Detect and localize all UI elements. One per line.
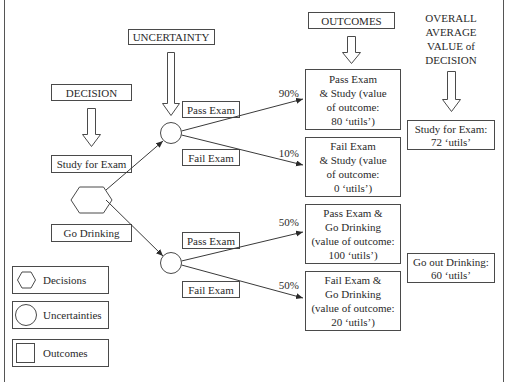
legend-decisions-label: Decisions [43,274,86,286]
outcome-line: 80 ‘utils’) [331,115,375,128]
branch-label-upper-pass: Pass Exam [183,102,240,118]
decision-option-study: Study for Exam [52,156,132,173]
overall-value-line: 60 ‘utils’ [431,269,471,281]
outcome-line: Pass Exam & [323,207,383,219]
branch-label-upper-pass-text: Pass Exam [187,104,235,116]
outcome-line: Go Drinking [325,221,381,233]
overall-value-line: Study for Exam: [415,123,488,135]
outcome-box-fail-drinking: Fail Exam & Go Drinking (value of outcom… [306,272,401,331]
outcome-line: (value of outcome: [311,302,394,315]
overall-header-line: AVERAGE [425,26,476,38]
outcome-line: Go Drinking [325,288,381,300]
outcome-line: 100 ‘utils’) [328,249,378,262]
branch-label-lower-pass: Pass Exam [183,233,240,249]
probability-upper-pass: 90% [279,87,299,99]
outcome-box-pass-study: Pass Exam & Study (value of outcome: 80 … [306,70,401,130]
outcome-line: Fail Exam & [325,274,382,286]
decision-tree-diagram: UNCERTAINTY DECISION Study for Exam Go D… [0,0,507,382]
legend-item-decisions: Decisions [13,267,109,294]
decision-option-drinking-label: Go Drinking [64,227,120,239]
legend-item-outcomes: Outcomes [13,340,109,367]
legend-hexagon-icon [18,272,36,288]
outcomes-header: OUTCOMES [309,13,395,29]
legend-square-icon [17,344,35,363]
outcomes-header-label: OUTCOMES [321,15,382,27]
outcome-line: of outcome: [327,168,380,180]
outcome-box-fail-study: Fail Exam & Study (value of outcome: 0 ‘… [306,138,401,197]
overall-header-line: VALUE of [427,40,475,52]
legend: Decisions Uncertainties Outcomes [13,267,109,367]
legend-outcomes-label: Outcomes [43,347,88,359]
uncertainty-header-label: UNCERTAINTY [133,31,210,43]
outcome-line: (value of outcome: [311,235,394,248]
outcome-line: 20 ‘utils’) [331,316,375,329]
decision-down-arrow-icon [83,109,101,147]
outcome-line: Pass Exam [329,73,377,85]
outcome-line: Fail Exam [330,140,376,152]
uncertainty-header: UNCERTAINTY [129,30,215,45]
overall-header-line: OVERALL [425,12,477,24]
decision-header: DECISION [52,85,132,101]
overall-value-study: Study for Exam: 72 ‘utils’ [408,121,495,150]
outcome-box-pass-drinking: Pass Exam & Go Drinking (value of outcom… [306,205,401,264]
overall-down-arrow-icon [443,72,461,112]
branch-label-lower-fail: Fail Exam [183,282,240,298]
outcome-line: & Study (value [319,87,386,100]
outcome-line: & Study (value [319,154,386,167]
branch-label-lower-fail-text: Fail Exam [188,284,234,296]
uncertainty-down-arrow-icon [163,53,180,116]
probability-upper-fail: 10% [279,147,299,159]
decision-option-study-label: Study for Exam [57,158,127,170]
decision-option-drinking: Go Drinking [52,225,132,242]
legend-item-uncertainties: Uncertainties [13,302,109,329]
uncertainty-node-study-icon [161,123,182,144]
overall-average-value-header: OVERALL AVERAGE VALUE of DECISION [425,12,477,66]
outcome-line: of outcome: [327,101,380,113]
overall-header-line: DECISION [425,54,476,66]
decision-node-hexagon-icon [71,187,112,213]
uncertainty-node-drinking-icon [161,253,182,274]
branch-label-upper-fail: Fail Exam [183,150,240,166]
overall-value-line: 72 ‘utils’ [431,136,471,148]
branch-label-lower-pass-text: Pass Exam [187,235,235,247]
outcome-line: 0 ‘utils’) [334,182,373,195]
legend-uncertainties-label: Uncertainties [43,309,102,321]
branch-label-upper-fail-text: Fail Exam [188,152,234,164]
probability-lower-fail: 50% [279,279,299,291]
outcomes-down-arrow-icon [343,37,361,64]
decision-header-label: DECISION [66,87,117,99]
overall-value-line: Go out Drinking: [413,256,489,268]
legend-circle-icon [16,305,37,326]
probability-lower-pass: 50% [279,216,299,228]
overall-value-drinking: Go out Drinking: 60 ‘utils’ [408,254,495,283]
